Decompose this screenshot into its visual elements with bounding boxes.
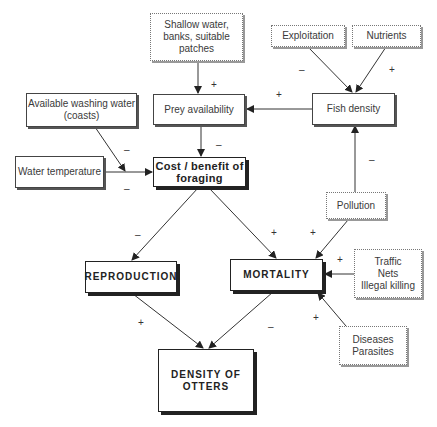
node-mortality: MORTALITY (230, 259, 323, 291)
sign-nutrients-to-fish: + (389, 65, 395, 75)
node-shallow-water: Shallow water, banks, suitable patches (150, 13, 243, 61)
node-exploitation: Exploitation (271, 25, 345, 47)
node-water-temperature: Water temperature (15, 156, 104, 188)
sign-pollution-to-mortality: + (310, 228, 316, 238)
sign-temperature-to-cost: – (124, 184, 130, 194)
sign-mortality-to-density: – (268, 322, 274, 332)
sign-shallow-to-prey: + (211, 80, 217, 90)
sign-cost-to-reproduction: – (135, 230, 141, 240)
node-traffic-nets-killing: Traffic Nets Illegal killing (354, 249, 422, 298)
sign-prey-to-cost: – (216, 140, 222, 150)
node-cost-benefit-foraging: Cost / benefit of foraging (153, 157, 246, 187)
sign-reproduction-to-density: + (138, 318, 144, 328)
node-washing-water: Available washing water (coasts) (26, 93, 137, 127)
sign-fish-to-prey: + (276, 90, 282, 100)
sign-traffic-to-mortality: + (337, 255, 343, 265)
node-reproduction: REPRODUCTION (85, 261, 177, 293)
node-fish-density: Fish density (312, 93, 395, 125)
sign-washing-to-cost: – (124, 145, 130, 155)
node-pollution: Pollution (326, 192, 386, 219)
node-density-of-otters: DENSITY OF OTTERS (158, 349, 254, 412)
sign-diseases-to-mortality: + (313, 313, 319, 323)
sign-cost-to-mortality: + (271, 228, 277, 238)
sign-exploitation-to-fish: – (299, 65, 305, 75)
sign-pollution-to-fish: – (369, 155, 375, 165)
node-nutrients: Nutrients (352, 25, 421, 47)
node-diseases-parasites: Diseases Parasites (339, 326, 407, 365)
node-prey-availability: Prey availability (153, 94, 245, 125)
